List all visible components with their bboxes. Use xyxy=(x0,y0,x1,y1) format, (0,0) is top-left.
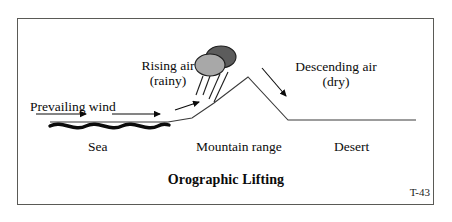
orographic-lifting-figure: Prevailing wind Rising air (rainy) Desce… xyxy=(0,0,452,222)
label-prevailing-wind: Prevailing wind xyxy=(30,100,116,115)
label-descending-air: Descending air (dry) xyxy=(280,60,392,89)
label-descending-air-main: Descending air xyxy=(295,59,376,74)
plate-code: T-43 xyxy=(410,186,430,198)
label-sea: Sea xyxy=(88,140,108,155)
label-rising-air-main: Rising air xyxy=(142,58,195,73)
label-desert: Desert xyxy=(334,140,369,155)
label-descending-air-sub: (dry) xyxy=(280,75,392,90)
label-rising-air-sub: (rainy) xyxy=(125,74,211,89)
label-mountain-range: Mountain range xyxy=(196,140,282,155)
page-title: Orographic Lifting xyxy=(0,172,452,188)
label-rising-air: Rising air (rainy) xyxy=(125,59,211,88)
